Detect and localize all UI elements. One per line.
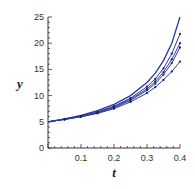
x-tick-label: 0.1 — [75, 153, 88, 163]
data-point — [179, 33, 181, 35]
data-point — [63, 118, 65, 120]
y-axis-label: y — [15, 76, 23, 91]
x-axis-label: t — [112, 165, 116, 180]
data-point — [179, 42, 181, 44]
y-tick-label: 25 — [34, 12, 44, 22]
data-point — [171, 62, 173, 64]
series-line — [48, 62, 180, 122]
x-tick-label: 0.4 — [174, 153, 187, 163]
data-point — [154, 86, 156, 88]
data-point — [171, 58, 173, 60]
data-point — [162, 67, 164, 69]
data-point — [154, 78, 156, 80]
data-point — [80, 116, 82, 118]
ticks: 0.10.20.30.40510152025 — [34, 12, 186, 163]
data-point — [96, 112, 98, 114]
series-line — [48, 47, 180, 121]
data-point — [129, 101, 131, 103]
data-point — [154, 82, 156, 84]
series-group — [48, 17, 181, 122]
x-tick-label: 0.3 — [141, 153, 154, 163]
data-point — [171, 53, 173, 55]
y-tick-label: 10 — [34, 91, 44, 101]
data-point — [171, 70, 173, 72]
data-point — [179, 46, 181, 48]
data-point — [146, 89, 148, 91]
y-tick-label: 15 — [34, 64, 44, 74]
data-point — [113, 108, 115, 110]
y-tick-label: 0 — [39, 143, 44, 153]
chart: 0.10.20.30.40510152025 t y — [0, 0, 195, 189]
x-tick-label: 0.2 — [108, 153, 121, 163]
y-tick-label: 5 — [39, 117, 44, 127]
data-point — [162, 74, 164, 76]
y-tick-label: 20 — [34, 38, 44, 48]
data-point — [146, 92, 148, 94]
data-point — [179, 60, 181, 62]
data-point — [162, 79, 164, 81]
